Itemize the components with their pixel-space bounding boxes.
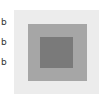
inner-square <box>40 37 73 68</box>
label-1: b <box>1 18 7 27</box>
label-2: b <box>1 38 7 47</box>
label-3: b <box>1 58 7 67</box>
